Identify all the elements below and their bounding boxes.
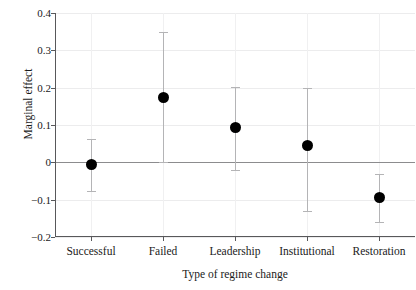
error-bar-cap-upper-institutional [303,88,312,89]
y-tick-mark [51,88,55,89]
x-tick-mark [235,237,236,241]
x-tick-label-failed: Failed [149,245,178,257]
error-bar-cap-lower-restoration [375,222,384,223]
y-tick-mark [51,13,55,14]
error-bar-cap-lower-successful [87,191,96,192]
y-tick-label: −0.1 [18,195,51,205]
data-point-leadership [230,122,241,133]
y-axis-spine [55,13,56,237]
error-bar-cap-lower-failed [159,162,168,163]
error-bar-cap-upper-failed [159,32,168,33]
x-tick-label-restoration: Restoration [352,245,405,257]
x-tick-mark [163,237,164,241]
x-tick-mark [379,237,380,241]
data-point-restoration [374,192,385,203]
y-tick-label: 0.3 [18,45,51,55]
x-axis-tick-labels: SuccessfulFailedLeadershipInstitutionalR… [0,245,416,261]
plot-area [55,13,415,237]
error-bar-cap-lower-leadership [231,170,240,171]
x-tick-mark [91,237,92,241]
y-tick-mark [51,237,55,238]
error-bar-cap-upper-successful [87,139,96,140]
marginal-effects-chart: Marginal effect 0.40.30.20.10−0.1−0.2 Su… [0,0,416,290]
y-tick-mark [51,162,55,163]
y-tick-mark [51,50,55,51]
y-tick-label: 0 [18,157,51,167]
x-tick-mark [307,237,308,241]
x-axis-title: Type of regime change [55,268,415,280]
y-tick-label: −0.2 [18,232,51,242]
error-bar-cap-upper-restoration [375,174,384,175]
data-point-successful [86,159,97,170]
error-bar-cap-lower-institutional [303,211,312,212]
y-tick-label: 0.2 [18,83,51,93]
error-bar-cap-upper-leadership [231,87,240,88]
y-tick-mark [51,200,55,201]
y-tick-label: 0.4 [18,8,51,18]
y-tick-label: 0.1 [18,120,51,130]
vertical-gridline [91,13,92,237]
x-tick-label-leadership: Leadership [209,245,260,257]
y-tick-mark [51,125,55,126]
x-tick-label-institutional: Institutional [279,245,335,257]
x-tick-label-successful: Successful [66,245,115,257]
data-point-institutional [302,140,313,151]
data-point-failed [158,92,169,103]
